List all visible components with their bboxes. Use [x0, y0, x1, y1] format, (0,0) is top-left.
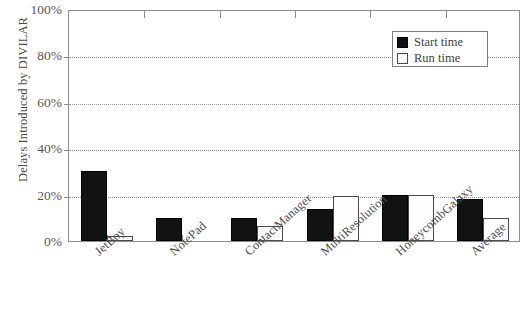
legend-swatch-run-time [397, 53, 408, 64]
x-axis-tick-mark [220, 11, 221, 18]
legend-item-start-time: Start time [397, 35, 483, 49]
bar-chart: Delays Introduced by DIVILAR 0%20%40%60%… [0, 0, 526, 326]
legend-label-start-time: Start time [414, 36, 463, 49]
x-axis-tick-mark [446, 11, 447, 18]
x-axis-tick-mark [370, 11, 371, 18]
legend-label-run-time: Run time [414, 52, 460, 65]
x-axis-tick-mark [144, 11, 145, 18]
bar-start-time [307, 209, 333, 241]
y-axis-tick-label: 20% [0, 189, 62, 203]
y-axis-tick-label: 60% [0, 96, 62, 110]
gridline [69, 104, 519, 105]
legend-item-run-time: Run time [397, 51, 483, 65]
gridline [69, 150, 519, 151]
y-axis-tick-label: 0% [0, 235, 62, 249]
y-axis-tick-mark [64, 197, 69, 198]
x-axis-tick-mark [295, 11, 296, 18]
y-axis-tick-label: 80% [0, 49, 62, 63]
y-axis-tick-mark [64, 57, 69, 58]
y-axis-tick-label: 40% [0, 142, 62, 156]
y-axis-tick-mark [64, 150, 69, 151]
legend: Start time Run time [392, 31, 488, 67]
y-axis-tick-label: 100% [0, 3, 62, 17]
bar-start-time [81, 171, 107, 241]
y-axis-tick-mark [64, 104, 69, 105]
legend-swatch-start-time [397, 37, 408, 48]
